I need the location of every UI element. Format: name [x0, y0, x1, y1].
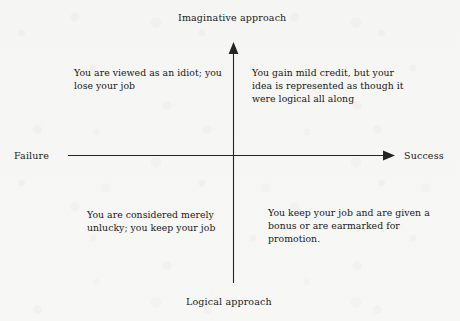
- quadrant-text-failure-logical: You are considered merely unlucky; you k…: [87, 208, 237, 234]
- quadrant-text-success-imaginative: You gain mild credit, but your idea is r…: [252, 66, 412, 105]
- axes-group: [0, 0, 460, 321]
- quadrant-text-failure-imaginative: You are viewed as an idiot; you lose you…: [74, 66, 224, 92]
- quadrant-text-success-logical: You keep your job and are given a bonus …: [268, 206, 433, 245]
- axis-label-failure: Failure: [14, 150, 49, 161]
- axis-arrow-up-icon: [229, 42, 239, 54]
- axis-label-imaginative-approach: Imaginative approach: [178, 12, 286, 23]
- axis-label-success: Success: [404, 150, 444, 161]
- axis-arrow-right-icon: [383, 151, 395, 161]
- diagram-canvas: Imaginative approach Logical approach Fa…: [0, 0, 460, 321]
- axis-label-logical-approach: Logical approach: [186, 296, 272, 307]
